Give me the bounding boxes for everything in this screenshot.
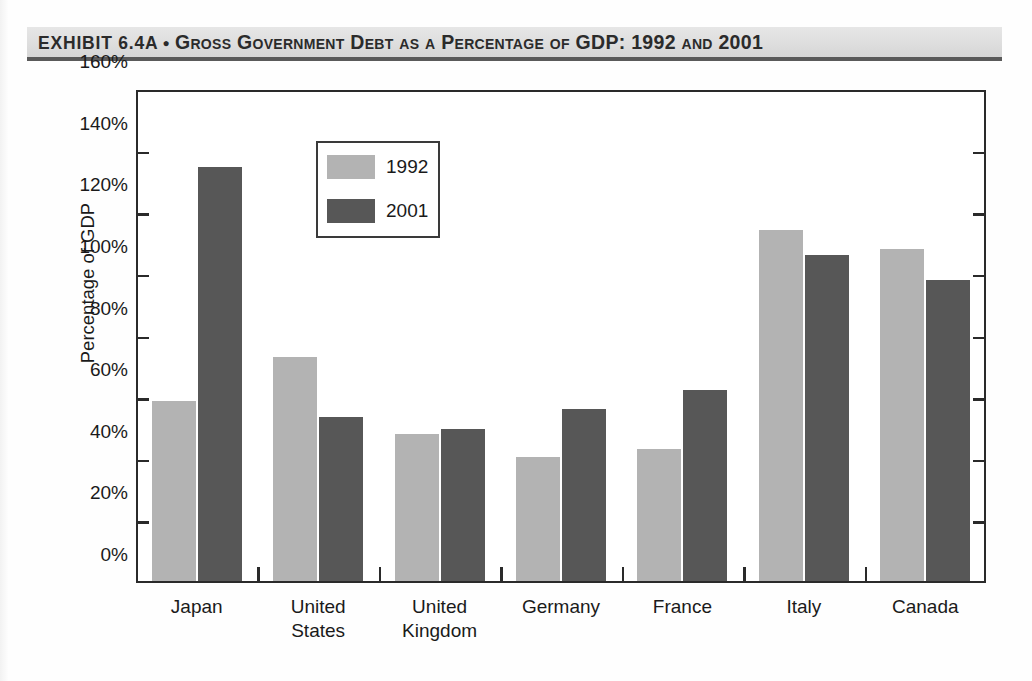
- bar: [805, 255, 849, 581]
- exhibit-title-text: Gross Government Debt as a Percentage of…: [175, 31, 763, 53]
- exhibit-title-band: EXHIBIT 6.4A●Gross Government Debt as a …: [27, 27, 1002, 57]
- y-tick-label: 160%: [54, 51, 128, 73]
- legend-label-1992: 1992: [386, 156, 428, 178]
- y-tick-label: 100%: [54, 236, 128, 258]
- y-tick-label: 120%: [54, 174, 128, 196]
- bullet-separator-icon: ●: [158, 36, 174, 50]
- bar: [441, 429, 485, 581]
- x-axis-label: France: [653, 595, 712, 619]
- y-tick-label: 40%: [54, 421, 128, 443]
- bar: [683, 390, 727, 580]
- y-tick-label: 60%: [54, 359, 128, 381]
- y-tick-label: 20%: [54, 482, 128, 504]
- y-tick-label: 140%: [54, 113, 128, 135]
- legend-item-1992: 1992: [327, 155, 428, 179]
- bars-layer: [136, 90, 986, 583]
- x-axis-label: UnitedKingdom: [402, 595, 477, 643]
- legend-label-2001: 2001: [386, 200, 428, 222]
- x-axis-label: Japan: [171, 595, 223, 619]
- bar: [319, 417, 363, 581]
- x-axis-label: Germany: [522, 595, 600, 619]
- x-axis-label: UnitedStates: [291, 595, 346, 643]
- bar: [198, 167, 242, 580]
- bar: [562, 409, 606, 581]
- y-axis-tick-labels: 0%20%40%60%80%100%120%140%160%: [48, 62, 128, 555]
- legend-item-2001: 2001: [327, 199, 428, 223]
- bar: [516, 457, 560, 581]
- legend-swatch-1992: [327, 155, 375, 179]
- exhibit-page: EXHIBIT 6.4A●Gross Government Debt as a …: [0, 0, 1032, 681]
- y-tick-label: 80%: [54, 298, 128, 320]
- bar: [152, 401, 196, 580]
- bar: [880, 249, 924, 581]
- legend-swatch-2001: [327, 199, 375, 223]
- bar: [759, 230, 803, 580]
- y-tick-label: 0%: [54, 544, 128, 566]
- exhibit-label: EXHIBIT 6.4A: [38, 33, 158, 53]
- bar: [273, 357, 317, 581]
- bar: [637, 449, 681, 581]
- bar-chart: Percentage of GDP 0%20%40%60%80%100%120%…: [0, 62, 1032, 681]
- x-axis-label: Canada: [892, 595, 959, 619]
- x-axis-label: Italy: [786, 595, 821, 619]
- x-axis-category-labels: JapanUnitedStatesUnitedKingdomGermanyFra…: [136, 589, 986, 659]
- title-underline-rule: [27, 57, 1002, 61]
- exhibit-title: EXHIBIT 6.4A●Gross Government Debt as a …: [27, 31, 763, 54]
- bar: [395, 434, 439, 581]
- legend: 1992 2001: [316, 141, 440, 238]
- bar: [926, 280, 970, 581]
